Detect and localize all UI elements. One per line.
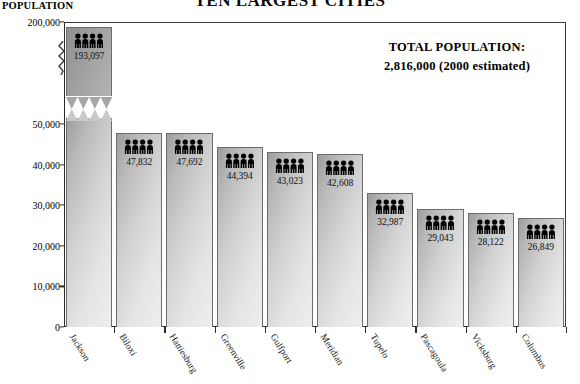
- y-axis-tick-mark: [60, 123, 64, 124]
- y-axis-tick-mark: [60, 245, 64, 246]
- bar-value-label: 26,849: [519, 242, 563, 252]
- x-axis-tick-mark: [215, 327, 216, 333]
- bar-hattiesburg[interactable]: 47,692: [166, 133, 212, 327]
- x-axis-tick-mark: [365, 327, 366, 333]
- x-axis-tick-mark: [415, 327, 416, 333]
- axis-break-zigzag-icon: [66, 95, 112, 107]
- bar-columbus[interactable]: 26,849: [518, 218, 564, 327]
- bar-value-label: 193,097: [67, 51, 111, 61]
- people-group-icon: [275, 158, 305, 177]
- x-axis-label-pascagoula: Pascagoula: [419, 332, 450, 374]
- people-group-icon: [375, 199, 405, 218]
- x-axis-label-tupelo: Tupelo: [369, 332, 392, 360]
- axis-break-zigzag-lower-icon: [66, 107, 112, 119]
- bar-meridian[interactable]: 42,608: [317, 154, 363, 327]
- bar-greenville[interactable]: 44,394: [217, 147, 263, 327]
- x-axis-label-jackson: Jackson: [68, 332, 92, 363]
- people-group-icon: [124, 139, 154, 158]
- bar-pascagoula[interactable]: 29,043: [417, 209, 463, 327]
- y-axis-tick-label: 20,000: [0, 240, 60, 251]
- bar-value-label: 28,122: [469, 237, 513, 247]
- x-axis-tick-mark: [566, 327, 567, 333]
- y-axis-tick-mark: [60, 164, 64, 165]
- bar-vicksburg[interactable]: 28,122: [468, 213, 514, 327]
- bar-gulfport[interactable]: 43,023: [267, 152, 313, 327]
- chart-title: TEN LARGEST CITIES: [0, 0, 580, 11]
- bar-value-label: 32,987: [368, 217, 412, 227]
- x-axis-tick-mark: [516, 327, 517, 333]
- y-axis-tick-mark: [60, 326, 64, 327]
- x-axis-label-hattiesburg: Hattiesburg: [168, 332, 200, 375]
- total-population-heading: TOTAL POPULATION:: [350, 38, 564, 57]
- people-group-icon: [74, 33, 104, 52]
- x-axis-tick-mark: [315, 327, 316, 333]
- y-axis-tick-label: 30,000: [0, 200, 60, 211]
- y-axis-tick-mark: [60, 286, 64, 287]
- x-axis-label-greenville: Greenville: [218, 332, 248, 371]
- people-group-icon: [174, 139, 204, 158]
- people-group-icon: [476, 219, 506, 238]
- x-axis-tick-mark: [114, 327, 115, 333]
- people-group-icon: [225, 153, 255, 172]
- bar-value-label: 47,832: [117, 157, 161, 167]
- y-axis-tick-label: 40,000: [0, 159, 60, 170]
- bar-jackson-upper[interactable]: 193,097: [66, 27, 112, 96]
- people-group-icon: [425, 215, 455, 234]
- y-axis-tick-mark: [60, 21, 64, 22]
- x-axis-tick-mark: [265, 327, 266, 333]
- bar-value-label: 44,394: [218, 171, 262, 181]
- y-axis-tick-mark: [60, 205, 64, 206]
- total-population-value: 2,816,000 (2000 estimated): [350, 57, 564, 76]
- y-axis-title: POPULATION: [2, 0, 73, 11]
- x-axis-tick-mark: [164, 327, 165, 333]
- bar-jackson-lower[interactable]: [66, 118, 112, 327]
- x-axis-label-meridian: Meridian: [319, 332, 346, 367]
- y-axis-tick-label: 50,000: [0, 119, 60, 130]
- bar-value-label: 29,043: [418, 233, 462, 243]
- people-group-icon: [526, 224, 556, 243]
- x-axis-label-biloxi: Biloxi: [118, 332, 139, 357]
- chart-figure: TEN LARGEST CITIES POPULATION 010,00020,…: [0, 0, 580, 384]
- y-axis-tick-label: 200,000: [0, 17, 60, 28]
- y-axis-tick-label: 10,000: [0, 281, 60, 292]
- people-group-icon: [325, 160, 355, 179]
- y-axis-tick-label: 0: [0, 322, 60, 333]
- total-population-annotation: TOTAL POPULATION: 2,816,000 (2000 estima…: [350, 38, 564, 76]
- bar-value-label: 43,023: [268, 176, 312, 186]
- x-axis-label-gulfport: Gulfport: [268, 332, 294, 365]
- x-axis-tick-mark: [466, 327, 467, 333]
- bar-biloxi[interactable]: 47,832: [116, 133, 162, 327]
- x-axis-label-vicksburg: Vicksburg: [469, 332, 498, 370]
- bar-value-label: 42,608: [318, 178, 362, 188]
- bar-tupelo[interactable]: 32,987: [367, 193, 413, 327]
- bar-value-label: 47,692: [167, 157, 211, 167]
- x-axis-label-columbus: Columbus: [519, 332, 548, 370]
- y-axis-break-squiggle-icon: [57, 41, 66, 75]
